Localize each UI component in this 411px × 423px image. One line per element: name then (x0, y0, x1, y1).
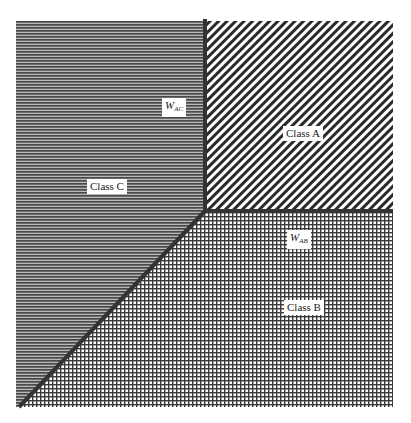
label-w-ac: WAC (162, 98, 186, 117)
label-class-c: Class C (87, 179, 127, 194)
region-class-a (205, 21, 393, 211)
label-class-b: Class B (284, 300, 324, 315)
label-class-a: Class A (283, 126, 323, 141)
label-w-ab: WAB (287, 230, 311, 249)
decision-region-diagram (0, 0, 411, 423)
